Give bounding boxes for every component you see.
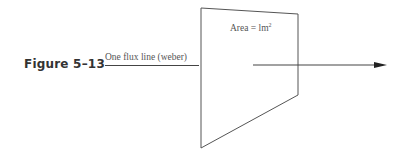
unit-area-plane xyxy=(201,8,298,148)
flux-diagram xyxy=(0,0,404,162)
arrowhead-icon xyxy=(374,62,387,68)
